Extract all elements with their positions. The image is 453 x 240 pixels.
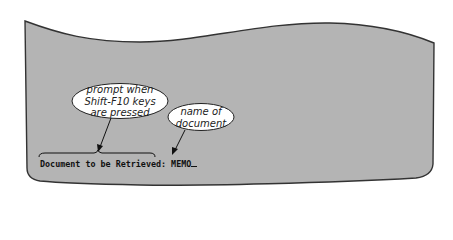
prompt-callout-text: prompt when Shift-F10 keys are pressed <box>72 84 168 119</box>
name-callout-text: name of document <box>168 106 234 129</box>
retrieve-prompt: Document to be Retrieved: MEMO <box>40 158 197 169</box>
name-callout-line-2: document <box>168 118 234 130</box>
prompt-label: Document to be Retrieved: <box>40 159 166 169</box>
prompt-callout-line-2: Shift-F10 keys <box>72 96 168 108</box>
text-cursor <box>191 158 197 167</box>
prompt-callout-line-1: prompt when <box>72 84 168 96</box>
document-name-input[interactable]: MEMO <box>171 159 191 169</box>
name-callout-line-1: name of <box>168 106 234 118</box>
prompt-callout-line-3: are pressed <box>72 107 168 119</box>
